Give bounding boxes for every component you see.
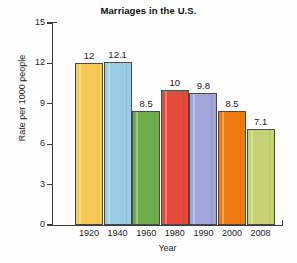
bar-value-label-2008: 7.1 <box>247 117 275 127</box>
plot-area: 1212.18.5109.88.57.1 <box>52 23 283 225</box>
bar-value-label-1940: 12.1 <box>104 50 132 60</box>
bar-1940 <box>104 62 132 225</box>
bar-1990 <box>189 93 217 225</box>
bar-value-label-1920: 12 <box>75 51 103 61</box>
bar-2008 <box>247 129 275 225</box>
y-axis-tick-label: 9 <box>5 99 45 108</box>
y-axis-tick-label: 12 <box>5 58 45 67</box>
bar-2000 <box>218 111 246 225</box>
y-axis-tick-label: 15 <box>5 18 45 27</box>
y-axis-tick-label: 6 <box>5 139 45 148</box>
bar-value-label-2000: 8.5 <box>218 99 246 109</box>
x-axis-tick-label-2008: 2008 <box>244 229 278 238</box>
y-axis-tick-label: 3 <box>5 180 45 189</box>
chart-title: Marriages in the U.S. <box>0 5 297 16</box>
x-axis-label: Year <box>52 243 283 253</box>
bar-chart-figure: Marriages in the U.S. Rate per 1000 peop… <box>0 0 297 263</box>
bar-value-label-1960: 8.5 <box>132 99 160 109</box>
bar-value-label-1980: 10 <box>161 78 189 88</box>
bar-value-label-1990: 9.8 <box>189 81 217 91</box>
y-axis-tick-label: 0 <box>5 220 45 229</box>
bar-1960 <box>132 111 160 225</box>
bar-1920 <box>75 63 103 225</box>
bar-1980 <box>161 90 189 225</box>
